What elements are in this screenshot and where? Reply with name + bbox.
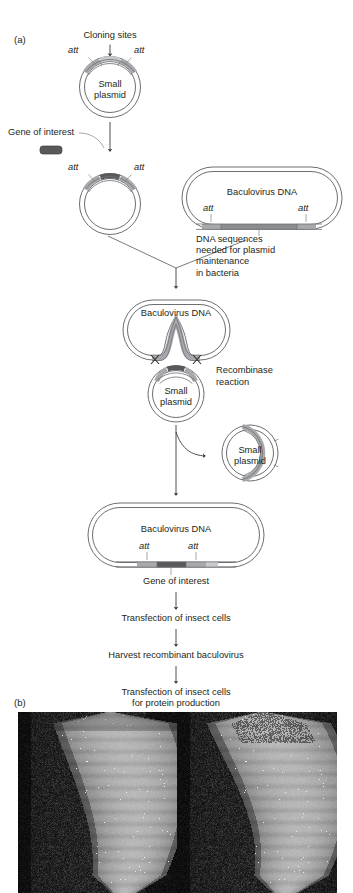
panel-b-label: (b) (14, 697, 26, 708)
bacmid-1-title: Baculovirus DNA (227, 187, 297, 199)
arrow-release-plasmid (176, 432, 205, 456)
maintenance-annotation: DNA sequences needed for plasmid mainten… (196, 234, 275, 279)
gene-seg-4 (168, 368, 185, 369)
cointegrate-plasmid-line2: plasmid (160, 397, 192, 409)
plasmid-1-title-line1: Small (98, 79, 121, 91)
att-label-6-left: att (139, 541, 149, 553)
released-plasmid-line2: plasmid (234, 456, 266, 468)
gene-leader-1 (79, 133, 104, 148)
att-label-2-right: att (134, 162, 144, 174)
plasmid-1-title-line2: plasmid (94, 90, 126, 102)
att-label-3-left: att (203, 203, 213, 215)
flow-step-transfection-1: Transfection of insect cells (121, 613, 230, 625)
att-label-2-left: att (68, 162, 78, 174)
flow-step-harvest: Harvest recombinant baculovirus (108, 650, 243, 662)
recomb-strand (152, 321, 200, 358)
plasmid-2-inner (85, 179, 136, 230)
att-label-6-right: att (188, 541, 198, 553)
recombinase-reaction-line2: reaction (216, 377, 249, 389)
figure-root: (a) (0, 0, 353, 893)
bacmid-2-title: Baculovirus DNA (141, 524, 211, 536)
cloning-sites-label: Cloning sites (83, 30, 136, 42)
att-label-3-right: att (298, 203, 308, 215)
flow-step-transfection-2: Transfection of insect cells for protein… (121, 687, 230, 709)
larva-photo-left (18, 712, 177, 893)
larvae-photo-pair (18, 712, 337, 893)
cointegrate-plasmid-line1: Small (164, 386, 187, 398)
gene-of-interest-label-2: Gene of interest (143, 576, 209, 588)
released-plasmid-line1: Small (238, 445, 261, 457)
cointegrate-bacmid-title: Baculovirus DNA (141, 308, 211, 320)
att-label-1-right: att (134, 45, 144, 57)
att-label-1-left: att (68, 45, 78, 57)
gene-of-interest-label-1: Gene of interest (8, 127, 74, 139)
larva-photo-right (177, 712, 337, 893)
recombinase-reaction-line1: Recombinase (216, 365, 273, 377)
gene-of-interest-block (40, 146, 62, 154)
